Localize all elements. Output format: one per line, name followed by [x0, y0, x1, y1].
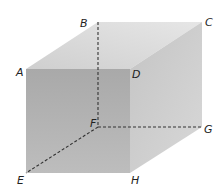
vertex-label-g: G: [204, 123, 213, 136]
cube-diagram: B C A D F G E H: [0, 0, 223, 190]
vertex-label-c: C: [205, 16, 213, 29]
vertex-label-e: E: [17, 174, 24, 187]
vertex-label-b: B: [80, 17, 88, 30]
vertex-label-d: D: [132, 68, 140, 81]
vertex-label-a: A: [15, 66, 24, 79]
front-face: [26, 69, 130, 173]
vertex-label-f: F: [90, 117, 97, 130]
vertex-label-h: H: [131, 174, 139, 187]
